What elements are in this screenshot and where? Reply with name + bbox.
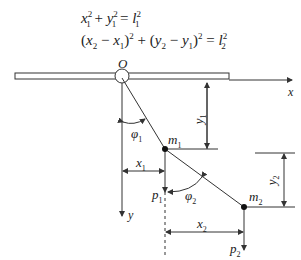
rod-1: [122, 78, 165, 149]
y1-label: y1: [192, 114, 209, 124]
x2-label: x2: [197, 217, 207, 234]
p2-label: p2: [230, 242, 241, 259]
m1-label: m1: [168, 133, 181, 150]
x1-label: x1: [136, 156, 146, 173]
rod-2: [165, 149, 244, 207]
pivot-circle: [115, 69, 129, 83]
origin-label: O: [118, 57, 127, 70]
y-axis-label: y: [128, 209, 133, 221]
double-pendulum-diagram: [0, 0, 301, 260]
phi1-label: φ1: [131, 127, 142, 144]
p1-label: p1: [152, 188, 163, 205]
x-axis-label: x: [288, 86, 293, 98]
m2-label: m2: [249, 190, 262, 207]
mass-m2: [241, 204, 247, 210]
phi2-label: φ2: [185, 189, 196, 206]
phi1-arc: [123, 119, 145, 123]
y2-label: y2: [265, 175, 282, 185]
